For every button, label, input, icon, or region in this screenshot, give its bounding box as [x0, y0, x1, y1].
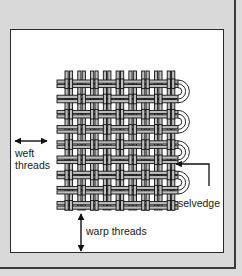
weft-label: weft threads — [15, 147, 50, 171]
fabric-weave — [57, 71, 189, 210]
selvedge-arrow — [176, 164, 209, 186]
weft-label-line2: threads — [15, 159, 50, 171]
selvedge-label: selvedge — [178, 197, 220, 209]
warp-label: warp threads — [86, 225, 147, 237]
weft-label-line1: weft — [15, 147, 50, 159]
